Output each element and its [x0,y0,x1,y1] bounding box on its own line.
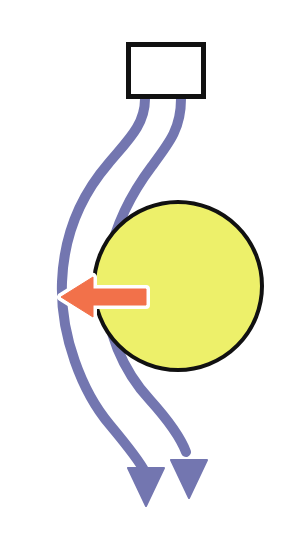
source-box [129,45,204,97]
flow-diagram [0,0,292,537]
diagram-canvas [0,0,292,537]
